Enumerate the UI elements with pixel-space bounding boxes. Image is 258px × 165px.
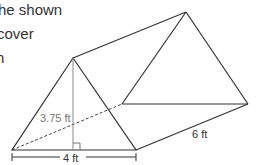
base-label: 4 ft: [63, 152, 78, 164]
length-label: 6 ft: [192, 128, 207, 140]
height-label: 3.75 ft: [40, 112, 71, 124]
prism-diagram: 3.75 ft 4 ft 6 ft: [0, 0, 258, 165]
length-edge: [136, 104, 248, 150]
ridge-edge: [73, 12, 186, 58]
right-angle-icon: [73, 143, 80, 150]
back-right-edge: [186, 12, 248, 104]
back-left-edge: [122, 12, 186, 104]
hidden-edge: [12, 104, 122, 150]
front-triangle: [12, 58, 136, 150]
